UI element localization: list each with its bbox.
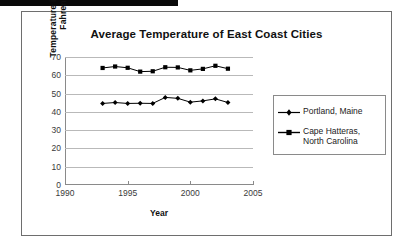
y-tick-label: 10 bbox=[52, 162, 61, 172]
data-point-square bbox=[151, 69, 155, 73]
y-tick-label: 40 bbox=[52, 107, 61, 117]
data-point-square bbox=[138, 70, 142, 74]
chart-frame: Average Temperature of East Coast Cities… bbox=[21, 11, 392, 236]
legend-item-cape-hatteras: Cape Hatteras, North Carolina bbox=[278, 126, 381, 146]
data-point-square bbox=[213, 64, 217, 68]
chart-legend: Portland, Maine Cape Hatteras, North Car… bbox=[273, 95, 386, 155]
data-point-diamond bbox=[213, 96, 218, 101]
data-point-diamond bbox=[175, 96, 180, 101]
data-point-square bbox=[201, 67, 205, 71]
scanned-page-edge-bar bbox=[0, 0, 178, 6]
y-tick-label: 50 bbox=[52, 89, 61, 99]
legend-item-portland: Portland, Maine bbox=[278, 106, 381, 118]
legend-label-portland: Portland, Maine bbox=[303, 106, 363, 116]
y-tick-label: 20 bbox=[52, 143, 61, 153]
data-point-diamond bbox=[188, 100, 193, 105]
legend-label-cape-hatteras: Cape Hatteras, North Carolina bbox=[303, 126, 381, 146]
y-tick-label: 60 bbox=[52, 70, 61, 80]
x-axis-title: Year bbox=[65, 208, 253, 218]
data-point-diamond bbox=[125, 101, 130, 106]
y-tick-label: 70 bbox=[52, 52, 61, 62]
series-lines bbox=[65, 57, 253, 185]
data-point-diamond bbox=[150, 101, 155, 106]
data-point-diamond bbox=[113, 100, 118, 105]
data-point-square bbox=[163, 65, 167, 69]
y-axis-title-line1: Temperature in Degrees bbox=[48, 0, 58, 58]
y-axis-title-line2: Fahrenheit bbox=[58, 0, 68, 30]
diamond-marker-icon bbox=[278, 107, 300, 118]
x-tick-label: 2005 bbox=[244, 188, 263, 198]
data-point-square bbox=[226, 67, 230, 71]
data-point-diamond bbox=[200, 98, 205, 103]
data-point-diamond bbox=[163, 95, 168, 100]
data-point-square bbox=[126, 66, 130, 70]
x-tick-label: 1995 bbox=[118, 188, 137, 198]
data-point-diamond bbox=[225, 100, 230, 105]
data-point-square bbox=[101, 66, 105, 70]
x-tick-mark bbox=[253, 181, 254, 185]
data-point-diamond bbox=[138, 101, 143, 106]
data-point-square bbox=[113, 64, 117, 68]
square-marker-icon bbox=[278, 127, 300, 138]
x-tick-label: 1990 bbox=[56, 188, 75, 198]
chart-title: Average Temperature of East Coast Cities bbox=[22, 28, 391, 40]
plot-area: 010203040506070 1990199520002005 bbox=[65, 57, 253, 185]
data-point-square bbox=[176, 65, 180, 69]
x-tick-label: 2000 bbox=[181, 188, 200, 198]
data-point-diamond bbox=[100, 101, 105, 106]
y-tick-label: 30 bbox=[52, 125, 61, 135]
data-point-square bbox=[188, 68, 192, 72]
